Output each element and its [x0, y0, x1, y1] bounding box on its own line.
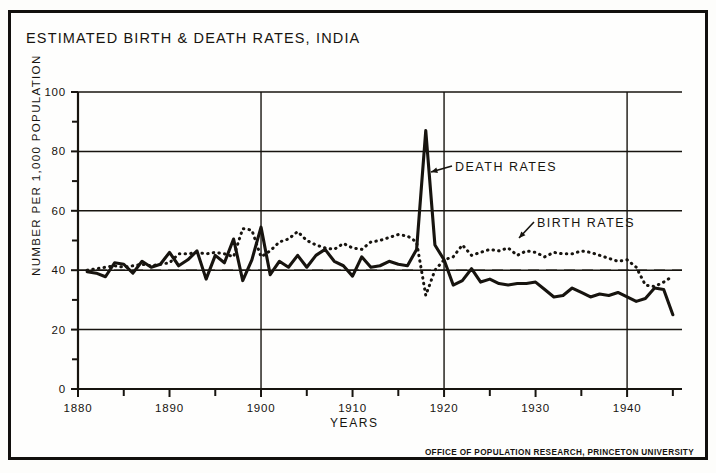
series-death-rates — [87, 131, 673, 315]
svg-text:1930: 1930 — [521, 402, 550, 414]
svg-text:1940: 1940 — [613, 402, 642, 414]
svg-text:80: 80 — [52, 145, 66, 157]
svg-text:1880: 1880 — [64, 402, 93, 414]
gridlines-vertical — [261, 92, 627, 389]
svg-text:60: 60 — [52, 205, 66, 217]
svg-text:20: 20 — [52, 324, 66, 336]
svg-text:1890: 1890 — [155, 402, 184, 414]
axis-ticks — [71, 92, 673, 397]
svg-text:100: 100 — [44, 86, 66, 98]
chart-plot: 0204060801001880189019001910192019301940 — [0, 0, 716, 473]
svg-text:1920: 1920 — [430, 402, 459, 414]
svg-text:1910: 1910 — [338, 402, 367, 414]
svg-text:40: 40 — [52, 264, 66, 276]
svg-text:0: 0 — [59, 383, 66, 395]
figure-root: ESTIMATED BIRTH & DEATH RATES, INDIA NUM… — [0, 0, 716, 473]
gridlines-horizontal — [78, 92, 682, 330]
axis-tick-labels: 0204060801001880189019001910192019301940 — [44, 86, 641, 414]
svg-text:1900: 1900 — [247, 402, 276, 414]
annotation-leader-arrows — [431, 166, 534, 238]
